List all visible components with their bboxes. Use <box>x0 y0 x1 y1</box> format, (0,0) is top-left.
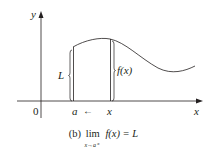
lim-text: lim <box>86 128 100 139</box>
figure-caption: (b) lim x→a⁺ f(x) = L <box>0 128 207 140</box>
approach-arrow-icon: ← <box>83 105 93 116</box>
brace-L <box>69 50 73 101</box>
caption-prefix: (b) <box>69 128 81 139</box>
limit-operator: lim x→a⁺ <box>86 128 100 140</box>
x-marker-label: x <box>107 106 112 117</box>
brace-fx <box>112 41 116 101</box>
caption-function: f(x) <box>105 128 120 139</box>
limit-subscript: x→a⁺ <box>80 139 104 151</box>
y-axis-label: y <box>31 9 36 20</box>
function-curve <box>73 38 195 71</box>
brace-L-label: L <box>58 70 64 81</box>
brace-fx-label: f(x) <box>117 65 132 76</box>
x-axis-label: x <box>194 106 199 117</box>
a-marker-label: a <box>72 106 78 117</box>
caption-equals: = L <box>123 128 139 139</box>
origin-label: 0 <box>33 106 39 117</box>
y-axis-arrow-icon <box>39 11 44 18</box>
x-axis-arrow-icon <box>196 99 203 104</box>
